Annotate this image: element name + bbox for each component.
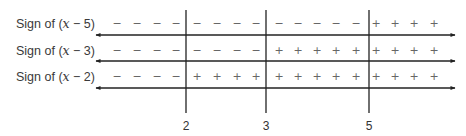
minus-sign: − — [112, 17, 121, 30]
plus-sign: + — [274, 44, 283, 57]
minus-sign: − — [112, 44, 121, 57]
plus-sign: + — [409, 17, 418, 30]
critical-point-label: 2 — [183, 119, 190, 133]
minus-sign: − — [212, 44, 221, 57]
plus-sign: + — [351, 70, 360, 83]
minus-sign: − — [132, 17, 141, 30]
plus-sign: + — [293, 44, 302, 57]
plus-sign: + — [251, 70, 260, 83]
plus-sign: + — [390, 70, 399, 83]
minus-sign: − — [312, 17, 321, 30]
plus-sign: + — [371, 17, 380, 30]
minus-sign: − — [192, 17, 201, 30]
plus-sign: + — [331, 44, 340, 57]
plus-sign: + — [351, 44, 360, 57]
plus-sign: + — [409, 44, 418, 57]
plus-sign: + — [312, 70, 321, 83]
minus-sign: − — [171, 17, 180, 30]
sign-chart: −−−−−−−−−−−−−++++−−−−−−−−+++++++++−−−−++… — [0, 0, 466, 136]
plus-sign: + — [429, 44, 438, 57]
plus-sign: + — [274, 70, 283, 83]
minus-sign: − — [293, 17, 302, 30]
minus-sign: − — [112, 70, 121, 83]
minus-sign: − — [212, 17, 221, 30]
critical-point-label: 5 — [366, 119, 373, 133]
plus-sign: + — [312, 44, 321, 57]
plus-sign: + — [390, 44, 399, 57]
minus-sign: − — [274, 17, 283, 30]
minus-sign: − — [251, 17, 260, 30]
plus-sign: + — [331, 70, 340, 83]
plus-sign: + — [232, 70, 241, 83]
plus-sign: + — [409, 70, 418, 83]
minus-sign: − — [351, 17, 360, 30]
plus-sign: + — [212, 70, 221, 83]
minus-sign: − — [251, 44, 260, 57]
plus-sign: + — [429, 70, 438, 83]
minus-sign: − — [132, 70, 141, 83]
minus-sign: − — [331, 17, 340, 30]
plus-sign: + — [429, 17, 438, 30]
minus-sign: − — [232, 17, 241, 30]
minus-sign: − — [132, 44, 141, 57]
minus-sign: − — [171, 44, 180, 57]
minus-sign: − — [192, 44, 201, 57]
minus-sign: − — [152, 70, 161, 83]
minus-sign: − — [232, 44, 241, 57]
plus-sign: + — [371, 70, 380, 83]
plus-sign: + — [390, 17, 399, 30]
plus-sign: + — [371, 44, 380, 57]
minus-sign: − — [152, 17, 161, 30]
plus-sign: + — [293, 70, 302, 83]
critical-point-label: 3 — [263, 119, 270, 133]
minus-sign: − — [171, 70, 180, 83]
plus-sign: + — [192, 70, 201, 83]
minus-sign: − — [152, 44, 161, 57]
